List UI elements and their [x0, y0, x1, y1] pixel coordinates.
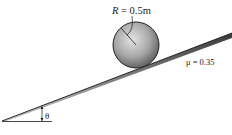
- radius-label: R = 0.5m: [111, 5, 151, 16]
- friction-label: μ = 0.35: [186, 57, 214, 67]
- diagram-canvas: θ R = 0.5m μ = 0.35: [0, 0, 232, 135]
- sphere: [113, 16, 159, 68]
- angle-label: θ: [45, 111, 49, 121]
- angle-indicator: [41, 106, 44, 121]
